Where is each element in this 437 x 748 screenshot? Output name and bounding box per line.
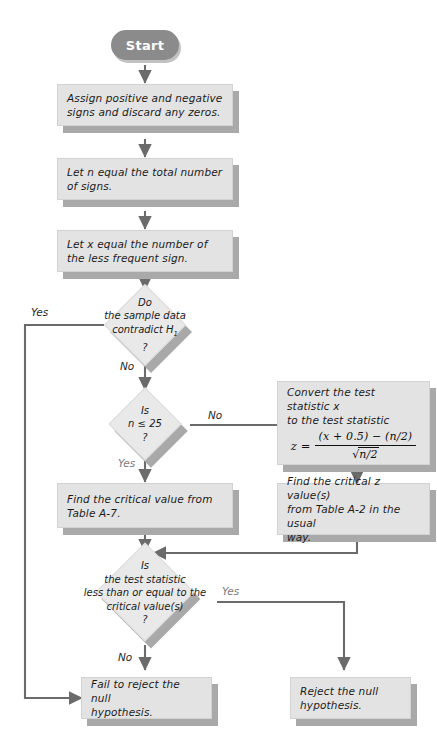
node-fail-to-reject[interactable]: Fail to reject the null hypothesis. (81, 677, 212, 719)
find-critical-a7-text: Find the critical value from Table A-7. (58, 492, 232, 520)
edge-label-decision-yes: Yes (222, 585, 239, 597)
edge-label-nle25-no: No (208, 409, 222, 421)
convert-statistic-text: Convert the test statistic x to the test… (278, 385, 429, 462)
decision-n-le-25-line3: ? (142, 431, 147, 445)
let-x-line2: the less frequent sign. (67, 252, 188, 264)
let-n-line1: Let n equal the total number (67, 166, 222, 178)
decision-n-le-25-text: Is n ≤ 25 ? (90, 396, 200, 452)
decision-test-line5: ? (142, 613, 147, 627)
fail-reject-line1: Fail to reject the null (91, 678, 180, 704)
decision-test-statistic-text: Is the test statistic less than or equal… (50, 553, 240, 633)
decision-test-line2: the test statistic (104, 573, 185, 587)
node-find-critical-a7[interactable]: Find the critical value from Table A-7. (57, 483, 233, 528)
node-let-n[interactable]: Let n equal the total number of signs. (57, 158, 233, 200)
fail-to-reject-text: Fail to reject the null hypothesis. (82, 677, 211, 719)
decision-n-le-25-line1: Is (141, 404, 149, 418)
find-critical-a2-text: Find the critical z value(s) from Table … (278, 474, 429, 544)
let-n-line2: of signs. (67, 180, 112, 192)
reject-line1: Reject the null (300, 685, 378, 697)
let-x-line1: Let x equal the number of (67, 238, 208, 250)
find-a2-line1: Find the critical z value(s) (287, 475, 380, 501)
decision-contradict-line3: contradict H1 (112, 323, 178, 342)
assign-signs-line2: signs and discard any zeros. (67, 106, 221, 118)
decision-n-le-25-line2: n ≤ 25 (128, 417, 162, 431)
node-let-x[interactable]: Let x equal the number of the less frequ… (57, 230, 233, 272)
node-assign-signs[interactable]: Assign positive and negative signs and d… (57, 84, 233, 126)
decision-contradict-line2: the sample data (104, 309, 186, 323)
convert-line2: to the test statistic (287, 414, 389, 426)
decision-contradict-subscript: 1 (174, 330, 178, 338)
reject-null-text: Reject the null hypothesis. (291, 684, 410, 712)
decision-test-line1: Is (141, 559, 149, 573)
node-start[interactable]: Start (111, 30, 179, 60)
find-a2-line2: from Table A-2 in the usual (287, 503, 400, 529)
edge-label-decision-no: No (118, 651, 132, 663)
assign-signs-line1: Assign positive and negative (67, 92, 222, 104)
z-formula-radicand: n/2 (358, 447, 378, 462)
decision-contradict-line1: Do (138, 296, 152, 310)
find-a7-line2: Table A-7. (67, 507, 121, 519)
node-reject-null[interactable]: Reject the null hypothesis. (290, 677, 411, 719)
z-formula: z = (x + 0.5) − (n/2) √n/2 (287, 430, 420, 462)
fail-reject-line2: hypothesis. (91, 706, 153, 718)
let-x-text: Let x equal the number of the less frequ… (58, 237, 232, 265)
flowchart-canvas: Start Assign positive and negative signs… (0, 0, 437, 748)
edge-label-contradict-no: No (120, 360, 134, 372)
decision-test-line3: less than or equal to the (84, 586, 206, 600)
decision-contradict-text: Do the sample data contradict H1 ? (66, 292, 224, 358)
node-convert-statistic[interactable]: Convert the test statistic x to the test… (277, 381, 430, 465)
find-a7-line1: Find the critical value from (67, 493, 213, 505)
assign-signs-text: Assign positive and negative signs and d… (58, 91, 232, 119)
decision-contradict-line4: ? (142, 341, 147, 355)
z-formula-numerator: (x + 0.5) − (n/2) (315, 430, 417, 446)
decision-test-line4: critical value(s) (107, 600, 184, 614)
node-find-critical-a2[interactable]: Find the critical z value(s) from Table … (277, 483, 430, 535)
edge-label-contradict-yes: Yes (31, 306, 48, 318)
start-label: Start (126, 38, 164, 53)
z-formula-fraction: (x + 0.5) − (n/2) √n/2 (315, 430, 417, 462)
reject-line2: hypothesis. (300, 699, 362, 711)
convert-line1: Convert the test statistic x (287, 386, 375, 412)
edge-label-nle25-yes: Yes (118, 457, 135, 469)
z-formula-lhs: z = (291, 439, 311, 453)
z-formula-denominator: √n/2 (348, 446, 382, 462)
find-a2-line3: way. (287, 531, 311, 543)
let-n-text: Let n equal the total number of signs. (58, 165, 232, 193)
